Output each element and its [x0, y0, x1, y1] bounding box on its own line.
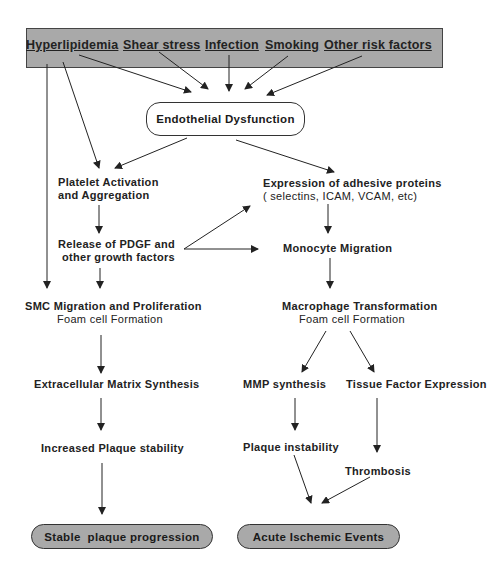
platelet-line2: and Aggregation — [58, 189, 159, 202]
endothelial-dysfunction-node: Endothelial Dysfunction — [146, 102, 305, 136]
stable-plaque-outcome: Stable plaque progression — [31, 524, 213, 549]
endothelial-label: Endothelial Dysfunction — [156, 113, 295, 125]
stable-outcome-label: Stable plaque progression — [44, 531, 199, 543]
macrophage-node: Macrophage Transformation Foam cell Form… — [282, 300, 437, 326]
plaque-instability-node: Plaque instability — [243, 441, 339, 453]
smc-node: SMC Migration and Proliferation Foam cel… — [25, 300, 202, 326]
platelet-line1: Platelet Activation — [58, 176, 159, 189]
pdgf-line1: Release of PDGF and — [58, 238, 175, 251]
adhesive-proteins-node: Expression of adhesive proteins ( select… — [263, 177, 442, 203]
ecm-node: Extracellular Matrix Synthesis — [34, 378, 200, 390]
tissue-factor-node: Tissue Factor Expression — [346, 378, 487, 390]
connector-arrows — [0, 0, 493, 568]
thrombosis-node: Thrombosis — [345, 465, 411, 477]
platelet-node: Platelet Activation and Aggregation — [58, 176, 159, 202]
adhesive-line2: ( selectins, ICAM, VCAM, etc) — [263, 190, 442, 203]
smc-line1: SMC Migration and Proliferation — [25, 300, 202, 313]
pdgf-node: Release of PDGF and other growth factors — [58, 238, 175, 264]
adhesive-line1: Expression of adhesive proteins — [263, 177, 442, 190]
increased-stability-node: Increased Plaque stability — [41, 442, 184, 454]
smc-line2: Foam cell Formation — [25, 313, 202, 326]
acute-outcome-label: Acute Ischemic Events — [253, 531, 385, 543]
pdgf-line2: other growth factors — [58, 251, 175, 264]
macrophage-line2: Foam cell Formation — [282, 313, 437, 326]
acute-ischemic-outcome: Acute Ischemic Events — [237, 524, 400, 549]
monocyte-node: Monocyte Migration — [283, 242, 392, 254]
macrophage-line1: Macrophage Transformation — [282, 300, 437, 313]
mmp-node: MMP synthesis — [243, 378, 326, 390]
